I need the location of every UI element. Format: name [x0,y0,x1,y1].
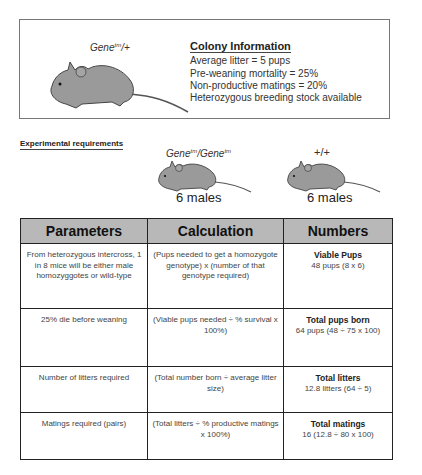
number-cell: Total pups born64 pups (48 ÷ 75 x 100) [284,309,393,367]
homozygous-mouse-icon [155,158,255,194]
wildtype-count-label: 6 males [307,190,353,205]
number-value: 64 pups (48 ÷ 75 x 100) [288,326,388,337]
number-value: 48 pups (8 x 6) [288,261,388,272]
heterozygous-genotype-label: Genetm/+ [90,42,130,53]
number-title: Total pups born [288,315,388,326]
parameter-cell: Matings required (pairs) [21,413,148,460]
header-parameters: Parameters [21,219,148,244]
parameter-cell: From heterozygous intercross, 1 in 8 mic… [21,244,148,309]
header-calculation: Calculation [148,219,284,244]
table-row: Matings required (pairs) (Total litters … [21,413,393,460]
header-numbers: Numbers [284,219,393,244]
table-row: From heterozygous intercross, 1 in 8 mic… [21,244,393,309]
calculation-cell: (Pups needed to get a homozygote genotyp… [148,244,284,309]
calculation-cell: (Total litters ÷ % productive matings x … [148,413,284,460]
colony-line-matings: Non-productive matings = 20% [190,80,362,92]
requirements-table: Parameters Calculation Numbers From hete… [20,218,393,460]
parameter-cell: 25% die before weaning [21,309,148,367]
calculation-cell: (Total number born ÷ average litter size… [148,367,284,413]
calculation-cell: (Viable pups needed ÷ % survival x 100%) [148,309,284,367]
colony-line-litter: Average litter = 5 pups [190,55,362,67]
mouse-icon [42,56,192,116]
table-row: Number of litters required (Total number… [21,367,393,413]
number-cell: Total matings16 (12.8 ÷ 80 x 100) [284,413,393,460]
wildtype-genotype-label: +/+ [314,146,330,158]
homozygous-count-label: 6 males [176,190,222,205]
colony-info-box: Genetm/+ Colony Information Average litt… [19,19,390,119]
table-row: 25% die before weaning (Viable pups need… [21,309,393,367]
wildtype-mouse-icon [284,158,384,194]
number-cell: Total litters12.8 litters (64 ÷ 5) [284,367,393,413]
number-value: 16 (12.8 ÷ 80 x 100) [288,430,388,441]
number-title: Viable Pups [288,250,388,261]
colony-line-mortality: Pre-weaning mortality = 25% [190,68,362,80]
colony-line-stock: Heterozygous breeding stock available [190,92,362,104]
parameter-cell: Number of litters required [21,367,148,413]
experimental-requirements-label: Experimental requirements [20,139,123,150]
colony-info-text: Colony Information Average litter = 5 pu… [190,40,362,104]
table-header-row: Parameters Calculation Numbers [21,219,393,244]
number-cell: Viable Pups48 pups (8 x 6) [284,244,393,309]
number-title: Total litters [288,373,388,384]
colony-info-title: Colony Information [190,40,291,53]
number-value: 12.8 litters (64 ÷ 5) [288,384,388,395]
number-title: Total matings [288,419,388,430]
